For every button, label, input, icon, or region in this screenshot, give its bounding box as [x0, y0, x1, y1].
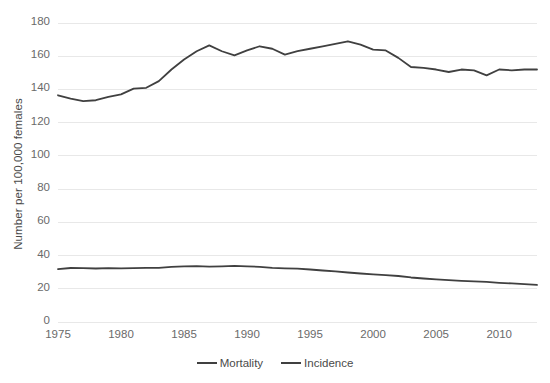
legend-item-incidence[interactable]: Incidence: [281, 357, 353, 369]
series-line-mortality: [58, 266, 537, 285]
plot-area: [0, 0, 550, 383]
chart-container: Number per 100,000 females 1801601401201…: [0, 0, 550, 383]
chart-legend: Mortality Incidence: [0, 357, 550, 369]
legend-label-mortality: Mortality: [220, 357, 263, 369]
legend-label-incidence: Incidence: [304, 357, 353, 369]
series-line-incidence: [58, 41, 537, 101]
legend-line-swatch-incidence: [281, 362, 301, 364]
legend-item-mortality[interactable]: Mortality: [197, 357, 263, 369]
legend-line-swatch-mortality: [197, 362, 217, 364]
